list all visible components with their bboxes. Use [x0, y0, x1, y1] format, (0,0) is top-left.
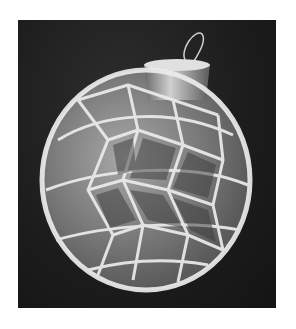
ornament-photo — [18, 20, 276, 308]
crochet-ornament-illustration — [18, 20, 276, 308]
